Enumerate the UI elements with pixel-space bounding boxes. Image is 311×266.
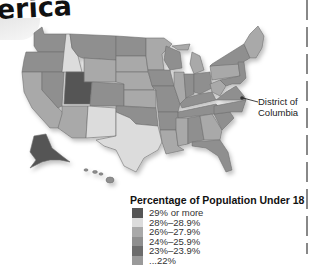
- state-florida: [192, 140, 232, 172]
- legend-title: Percentage of Population Under 18: [130, 194, 304, 206]
- legend-swatch: [132, 208, 143, 218]
- state-indiana: [184, 74, 194, 98]
- legend-swatch: [132, 256, 143, 266]
- state-iowa: [148, 70, 174, 86]
- state-oregon: [22, 52, 66, 72]
- state-new-mexico: [86, 106, 116, 138]
- state-mississippi: [176, 118, 188, 146]
- state-north-carolina: [214, 100, 246, 114]
- state-south-dakota: [116, 56, 148, 72]
- dc-callout: District of Columbia: [258, 96, 298, 118]
- legend-label: ...22%: [149, 256, 176, 266]
- state-colorado: [90, 82, 124, 106]
- state-arkansas: [158, 112, 178, 130]
- state-north-dakota: [116, 36, 146, 56]
- dc-label-line2: Columbia: [258, 107, 298, 118]
- dc-label-line1: District of: [258, 96, 298, 107]
- legend-swatch: [132, 246, 143, 256]
- state-kansas: [124, 90, 156, 108]
- state-hawaii: [84, 169, 114, 183]
- state-washington: [34, 27, 66, 52]
- legend-item: ...22%: [130, 256, 304, 266]
- state-wyoming: [84, 58, 116, 82]
- map-legend: Percentage of Population Under 18 29% or…: [130, 194, 304, 265]
- state-ohio: [194, 72, 212, 94]
- legend-swatch: [132, 218, 143, 228]
- state-arizona: [58, 106, 88, 138]
- legend-swatch: [132, 227, 143, 237]
- legend-swatch: [132, 237, 143, 247]
- state-alaska: [30, 134, 70, 168]
